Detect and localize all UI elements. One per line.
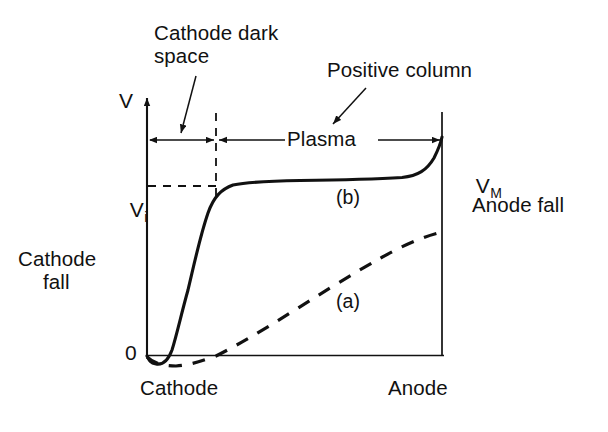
cathode-dark-space-label-line2: space xyxy=(154,45,209,68)
anode-fall-label: Anode fall xyxy=(472,194,564,217)
figure-canvas: Cathode dark space Positive column Plasm… xyxy=(0,0,608,432)
curve-a-label: (a) xyxy=(336,291,360,313)
curve-b-solid xyxy=(147,137,442,364)
positive-column-label: Positive column xyxy=(327,59,472,82)
curve-b-label: (b) xyxy=(336,187,360,209)
cathode-fall-label-line2: fall xyxy=(43,271,70,294)
anode-axis-label: Anode xyxy=(388,377,448,400)
cathode-dark-space-leader-arrow xyxy=(181,76,196,133)
vi-tick-label-base: V xyxy=(130,198,144,221)
vi-tick-label-subscript: i xyxy=(144,209,147,225)
curve-a-dashed xyxy=(147,232,442,366)
plasma-label: Plasma xyxy=(287,128,356,151)
positive-column-leader-arrow xyxy=(333,88,366,124)
y-axis-label: V xyxy=(119,89,133,113)
cathode-axis-label: Cathode xyxy=(140,377,218,400)
origin-label: 0 xyxy=(125,341,137,365)
cathode-fall-label-line1: Cathode xyxy=(18,248,96,271)
vi-tick-label: Vi xyxy=(106,174,147,245)
cathode-dark-space-label-line1: Cathode dark xyxy=(154,22,278,45)
